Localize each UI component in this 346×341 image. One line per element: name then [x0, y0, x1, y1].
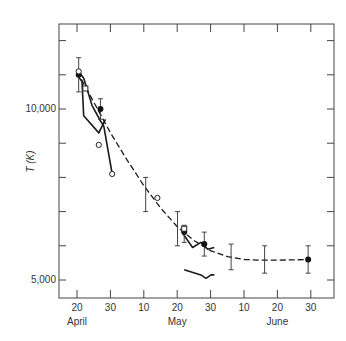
x-month-label: June [257, 316, 297, 327]
open-square-point [83, 86, 88, 91]
plot-frame [59, 24, 334, 298]
solid-curve [184, 270, 214, 279]
filled-point [201, 241, 207, 247]
x-tick-label: 10 [232, 302, 256, 313]
x-tick-label: 20 [65, 302, 89, 313]
open-point [155, 195, 160, 200]
x-month-label: May [157, 316, 197, 327]
open-point [76, 69, 81, 74]
x-tick-label: 10 [132, 302, 156, 313]
filled-point [305, 256, 311, 262]
open-point [110, 171, 115, 176]
chart-canvas [0, 0, 346, 341]
x-tick-label: 20 [265, 302, 289, 313]
solid-curve [183, 229, 215, 250]
y-axis-label: T (K) [25, 147, 36, 177]
y-tick-label: 5,000 [8, 274, 56, 285]
x-month-label: April [57, 316, 97, 327]
y-tick-label: 10,000 [8, 103, 56, 114]
filled-point [97, 106, 103, 112]
x-tick-label: 30 [98, 302, 122, 313]
fit-curve-dashed [77, 71, 308, 260]
x-tick-label: 30 [199, 302, 223, 313]
open-point [96, 142, 101, 147]
axis-ticks [59, 24, 334, 298]
x-tick-label: 30 [299, 302, 323, 313]
open-square-point [182, 226, 187, 231]
x-tick-label: 20 [165, 302, 189, 313]
